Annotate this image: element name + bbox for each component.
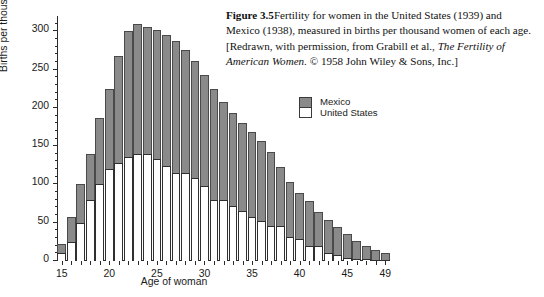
bar-segment-united-states[interactable]	[257, 221, 266, 261]
bar-segment-united-states[interactable]	[210, 200, 219, 261]
x-axis-tick	[262, 261, 263, 265]
bar-group[interactable]	[352, 241, 361, 261]
bar-segment-united-states[interactable]	[67, 242, 76, 261]
x-axis-tick	[138, 261, 139, 265]
bar-group[interactable]	[172, 41, 181, 261]
x-axis-tick	[281, 261, 282, 265]
bar-segment-united-states[interactable]	[286, 237, 295, 261]
x-axis-tick	[71, 261, 72, 265]
x-axis-tick-label: 40	[294, 268, 306, 280]
y-axis-minor-tick	[55, 76, 58, 77]
y-axis-minor-tick	[55, 138, 58, 139]
y-axis-tick: 200	[53, 107, 58, 108]
y-axis-tick-label: 100	[32, 176, 49, 188]
bar-group[interactable]	[95, 118, 104, 261]
chart-plot-area: 050100150200250300 1520253035404549	[57, 16, 390, 261]
bar-group[interactable]	[114, 56, 123, 261]
bar-segment-united-states[interactable]	[114, 163, 123, 261]
bar-segment-united-states[interactable]	[229, 206, 238, 261]
bar-segment-united-states[interactable]	[172, 173, 181, 261]
x-axis-tick-label: 15	[56, 268, 68, 280]
bar-group[interactable]	[57, 244, 66, 261]
bar-group[interactable]	[76, 184, 85, 261]
x-axis-tick	[338, 261, 339, 265]
y-axis-minor-tick	[55, 122, 58, 123]
bar-segment-united-states[interactable]	[153, 159, 162, 261]
bar-segment-united-states[interactable]	[381, 260, 390, 261]
bar-segment-united-states[interactable]	[267, 226, 276, 261]
x-axis-tick	[62, 261, 63, 265]
bar-group[interactable]	[210, 89, 219, 261]
x-axis-tick	[176, 261, 177, 265]
bar-group[interactable]	[67, 217, 76, 261]
bar-group[interactable]	[343, 234, 352, 261]
bar-segment-united-states[interactable]	[86, 200, 95, 261]
x-axis-tick	[233, 261, 234, 265]
bar-segment-united-states[interactable]	[133, 154, 142, 261]
bar-group[interactable]	[143, 27, 152, 261]
bar-group[interactable]	[191, 61, 200, 261]
bar-group[interactable]	[181, 50, 190, 261]
y-axis-title: Births per thousand women	[0, 0, 9, 72]
x-axis-tick	[252, 261, 253, 265]
bar-segment-united-states[interactable]	[314, 246, 323, 261]
bar-group[interactable]	[229, 113, 238, 261]
bar-segment-united-states[interactable]	[362, 259, 371, 261]
bar-group[interactable]	[324, 220, 333, 261]
bar-segment-united-states[interactable]	[105, 169, 114, 261]
bar-segment-united-states[interactable]	[276, 226, 285, 261]
y-axis-tick-label: 300	[32, 23, 49, 35]
bar-segment-united-states[interactable]	[191, 178, 200, 261]
bar-segment-united-states[interactable]	[124, 157, 133, 261]
x-axis-tick-label: 20	[104, 268, 116, 280]
bar-segment-united-states[interactable]	[181, 173, 190, 261]
bar-segment-united-states[interactable]	[305, 246, 314, 261]
y-axis-minor-tick	[55, 176, 58, 177]
bar-segment-united-states[interactable]	[57, 253, 66, 261]
bar-group[interactable]	[295, 193, 304, 261]
bar-segment-united-states[interactable]	[352, 259, 361, 261]
bar-segment-united-states[interactable]	[76, 223, 85, 261]
bar-group[interactable]	[276, 167, 285, 261]
bar-group[interactable]	[219, 102, 228, 261]
bar-segment-united-states[interactable]	[324, 253, 333, 261]
bar-group[interactable]	[267, 152, 276, 261]
bar-group[interactable]	[124, 31, 133, 261]
bar-group[interactable]	[371, 250, 380, 261]
bar-group[interactable]	[248, 132, 257, 261]
bar-group[interactable]	[305, 201, 314, 261]
bar-group[interactable]	[162, 35, 171, 261]
bar-segment-united-states[interactable]	[238, 211, 247, 261]
x-axis-tick	[319, 261, 320, 265]
bar-segment-united-states[interactable]	[295, 239, 304, 261]
bar-segment-united-states[interactable]	[95, 184, 104, 261]
bar-group[interactable]	[333, 227, 342, 261]
bar-segment-united-states[interactable]	[219, 200, 228, 261]
y-axis-minor-tick	[55, 160, 58, 161]
bar-group[interactable]	[381, 253, 390, 261]
x-axis-tick	[90, 261, 91, 265]
bar-segment-united-states[interactable]	[200, 186, 209, 261]
bar-group[interactable]	[105, 89, 114, 261]
y-axis-minor-tick	[55, 168, 58, 169]
bar-segment-united-states[interactable]	[248, 217, 257, 261]
bar-segment-united-states[interactable]	[371, 260, 380, 261]
bar-group[interactable]	[362, 246, 371, 261]
bar-group[interactable]	[133, 24, 142, 261]
bar-group[interactable]	[314, 212, 323, 261]
bar-group[interactable]	[286, 182, 295, 261]
bar-group[interactable]	[153, 30, 162, 261]
bar-segment-united-states[interactable]	[162, 166, 171, 261]
bar-group[interactable]	[238, 123, 247, 261]
bar-segment-united-states[interactable]	[333, 255, 342, 261]
bar-group[interactable]	[257, 141, 266, 261]
y-axis-minor-tick	[55, 53, 58, 54]
y-axis-tick-label: 150	[32, 138, 49, 150]
bar-group[interactable]	[200, 75, 209, 261]
x-axis-tick	[81, 261, 82, 265]
x-axis-tick	[214, 261, 215, 265]
bar-group[interactable]	[86, 154, 95, 261]
bar-segment-united-states[interactable]	[143, 154, 152, 261]
bar-segment-united-states[interactable]	[343, 258, 352, 261]
x-axis-title: Age of woman	[141, 276, 207, 287]
